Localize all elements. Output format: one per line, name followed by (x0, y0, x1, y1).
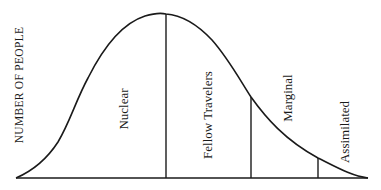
segment-label-assimilated: Assimilated (337, 100, 352, 163)
y-axis-label: NUMBER OF PEOPLE (13, 27, 25, 144)
segment-label-fellow-travelers: Fellow Travelers (200, 71, 215, 159)
distribution-curve (16, 13, 368, 178)
segment-label-marginal: Marginal (280, 74, 295, 122)
segment-label-nuclear: Nuclear (116, 88, 131, 130)
distribution-curve-diagram: NUMBER OF PEOPLE Nuclear Fellow Traveler… (0, 0, 381, 190)
